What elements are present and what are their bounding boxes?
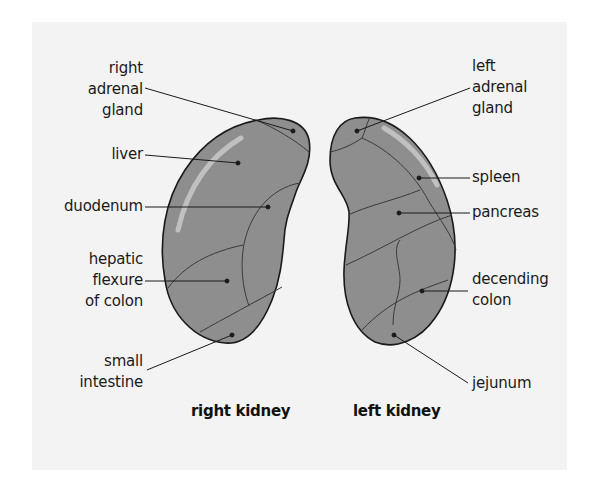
label-line: adrenal [472,77,582,98]
label-line: jejunum [472,373,582,394]
label-line: hepatic [40,249,143,270]
label-left-adrenal-gland: left adrenal gland [472,56,582,119]
label-line: of colon [40,291,143,312]
right-kidney-title: right kidney [191,402,290,420]
label-line: pancreas [472,202,582,223]
label-line: right [40,58,143,79]
label-line: intestine [40,372,143,393]
right-kidney-shape [162,118,309,343]
label-right-adrenal-gland: right adrenal gland [40,58,143,121]
label-line: spleen [472,167,582,188]
label-line: liver [40,144,143,165]
left-kidney-shape [330,117,456,345]
label-small-intestine: small intestine [40,351,143,393]
label-line: flexure [40,270,143,291]
label-line: colon [472,290,582,311]
left-kidney-title: left kidney [353,402,440,420]
label-decending-colon: decending colon [472,269,582,311]
label-line: gland [40,100,143,121]
label-jejunum: jejunum [472,373,582,394]
label-line: adrenal [40,79,143,100]
label-line: left [472,56,582,77]
label-line: decending [472,269,582,290]
label-line: gland [472,98,582,119]
label-pancreas: pancreas [472,202,582,223]
label-hepatic-flexure-of-colon: hepatic flexure of colon [40,249,143,312]
label-duodenum: duodenum [20,196,143,217]
label-spleen: spleen [472,167,582,188]
label-liver: liver [40,144,143,165]
label-line: small [40,351,143,372]
label-line: duodenum [20,196,143,217]
